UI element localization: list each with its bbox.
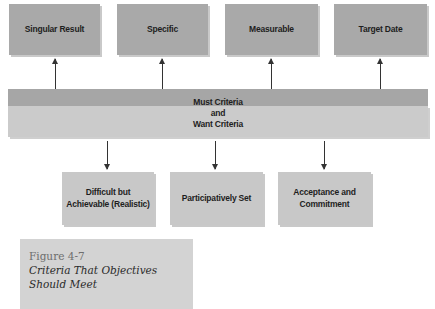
box-label: Measurable [249, 24, 294, 35]
box-measurable: Measurable [225, 4, 318, 55]
box-label-line2: Commitment [300, 199, 350, 210]
figure-title-line1: Criteria That Objectives [29, 263, 193, 277]
box-participatively-set: Participatively Set [170, 172, 263, 225]
box-target-date: Target Date [334, 4, 427, 55]
figure-number: Figure 4-7 [29, 249, 193, 263]
arrow-up-icon [271, 59, 272, 89]
figure-caption: Figure 4-7 Criteria That Objectives Shou… [20, 239, 193, 309]
box-label: Target Date [359, 24, 403, 35]
box-label-line2: Achievable (Realistic) [66, 199, 149, 210]
must-criteria-label: Must Criteria [8, 97, 428, 108]
box-label: Singular Result [25, 24, 84, 35]
figure-title-line2: Should Meet [29, 277, 193, 291]
box-acceptance-and-commitment: Acceptance and Commitment [278, 172, 371, 225]
arrow-down-icon [107, 141, 108, 169]
and-label: and [8, 108, 428, 119]
box-label: Specific [147, 24, 178, 35]
arrow-up-icon [55, 59, 56, 89]
arrow-down-icon [324, 141, 325, 169]
want-criteria-label: Want Criteria [8, 119, 428, 130]
box-specific: Specific [117, 4, 208, 55]
arrow-up-icon [162, 59, 163, 89]
box-label-line1: Participatively Set [182, 193, 251, 204]
criteria-band-label: Must Criteria and Want Criteria [8, 97, 428, 130]
arrow-up-icon [380, 59, 381, 89]
arrow-down-icon [215, 141, 216, 169]
box-singular-result: Singular Result [9, 4, 100, 55]
box-label-line1: Difficult but [86, 187, 131, 198]
box-difficult-but-achievable: Difficult but Achievable (Realistic) [62, 172, 154, 225]
box-label-line1: Acceptance and [293, 187, 355, 198]
